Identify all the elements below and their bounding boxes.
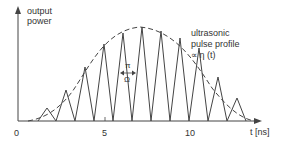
x-tick-5: 5 [102,128,107,138]
arrow-right-icon [132,71,136,76]
period-label-omega: Ω [124,75,130,85]
y-axis-arrow-icon [15,6,21,14]
x-axis-arrow-icon [254,118,262,124]
x-tick-10: 10 [185,128,195,138]
x-tick-0: 0 [14,128,19,138]
envelope-label-line3: ∝ η (t) [191,50,216,60]
period-label-pi: π [125,61,131,71]
envelope-label-line1: ultrasonic [191,28,230,38]
y-axis-label-line1: outputpower [27,6,52,26]
x-axis-label: t [ns] [250,127,270,137]
envelope-label-line2: pulse profile [191,39,240,49]
